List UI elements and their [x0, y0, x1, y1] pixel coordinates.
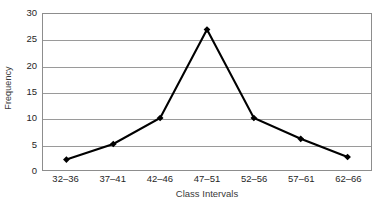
x-tick-label: 32–36 — [52, 174, 78, 184]
y-tick-label: 30 — [26, 8, 37, 18]
data-point-marker — [297, 135, 304, 142]
x-axis-tick-labels: 32–3637–4142–4647–5152–5657–6162–66 — [42, 174, 372, 188]
x-tick-label: 57–61 — [288, 174, 314, 184]
x-tick-label: 62–66 — [335, 174, 361, 184]
y-axis-title-label: Frequency — [3, 66, 13, 109]
series-line — [43, 14, 371, 170]
y-tick-label: 5 — [32, 140, 37, 150]
y-tick-label: 25 — [26, 35, 37, 45]
x-tick-label: 52–56 — [241, 174, 267, 184]
frequency-polygon-chart: Frequency 051015202530 32–3637–4142–4647… — [0, 0, 382, 205]
x-tick-label: 42–46 — [147, 174, 173, 184]
data-point-marker — [344, 154, 351, 161]
series-polyline — [66, 30, 347, 160]
y-tick-label: 20 — [26, 61, 37, 71]
y-tick-label: 10 — [26, 114, 37, 124]
y-axis-tick-labels: 051015202530 — [16, 13, 40, 171]
plot-area — [42, 13, 372, 171]
x-tick-label: 47–51 — [194, 174, 220, 184]
data-point-marker — [63, 156, 70, 163]
y-tick-label: 0 — [32, 166, 37, 176]
x-tick-label: 37–41 — [99, 174, 125, 184]
y-axis-title: Frequency — [0, 0, 16, 175]
x-axis-title: Class Intervals — [42, 189, 372, 199]
y-tick-label: 15 — [26, 87, 37, 97]
